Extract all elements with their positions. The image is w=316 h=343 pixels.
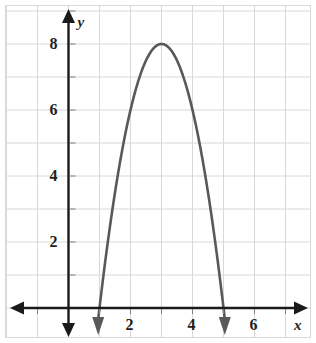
x-axis-right-arrowhead: [294, 302, 308, 315]
y-axis-down-arrowhead: [62, 323, 75, 337]
y-tick-label: 6: [50, 102, 58, 118]
y-tick-label: 2: [50, 234, 58, 250]
plot-frame: 2462468 x y: [5, 5, 311, 338]
y-tick-label: 8: [50, 36, 58, 52]
x-tick-label: 6: [250, 317, 258, 333]
x-tick-label: 4: [188, 317, 196, 333]
x-tick-label: 2: [126, 317, 134, 333]
y-axis-label: y: [78, 15, 85, 30]
coordinate-graph-figure: 2462468 x y: [0, 0, 316, 343]
y-tick-label: 4: [50, 168, 58, 184]
x-axis-left-arrowhead: [10, 302, 24, 315]
x-axis-label: x: [294, 318, 302, 333]
